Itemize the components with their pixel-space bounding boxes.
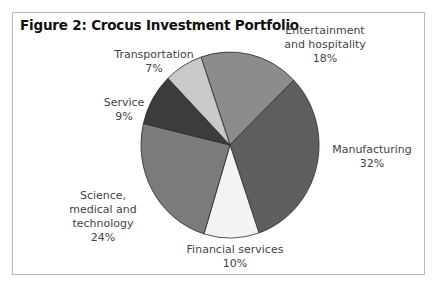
label-science: Science, medical and technology 24% bbox=[58, 189, 148, 245]
label-service: Service 9% bbox=[94, 96, 154, 124]
label-transportation: Transportation 7% bbox=[104, 48, 204, 76]
label-entertainment: Entertainment and hospitality 18% bbox=[270, 24, 380, 66]
label-manufacturing: Manufacturing 32% bbox=[322, 143, 422, 171]
label-financial: Financial services 10% bbox=[180, 243, 290, 271]
